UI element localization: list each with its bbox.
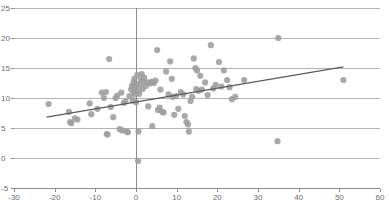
data-point <box>167 58 173 64</box>
y-tick-label: 10 <box>1 94 10 103</box>
data-point <box>157 87 163 93</box>
y-tick-label: 25 <box>1 4 10 13</box>
data-point <box>241 77 247 83</box>
data-point <box>145 103 151 109</box>
plot-area: -50510152025 -30-20-100102030405060 <box>0 0 389 203</box>
y-axis-labels: -50510152025 <box>1 4 10 193</box>
data-point <box>208 42 214 48</box>
trend-line <box>47 67 344 117</box>
data-point <box>161 109 167 115</box>
data-point <box>104 132 110 138</box>
data-point <box>189 94 195 100</box>
data-point <box>275 35 281 41</box>
data-point <box>197 73 203 79</box>
data-point <box>154 47 160 53</box>
data-point <box>152 78 158 84</box>
data-point <box>191 55 197 61</box>
x-tick-label: 30 <box>254 193 263 202</box>
x-tick-label: -30 <box>8 193 20 202</box>
data-point <box>135 129 141 135</box>
data-point <box>224 77 230 83</box>
data-point <box>186 129 192 135</box>
y-tick-label: 5 <box>1 124 6 133</box>
x-tick-label: 10 <box>172 193 181 202</box>
data-point <box>274 138 280 144</box>
x-tick-label: -20 <box>49 193 61 202</box>
x-tick-label: 60 <box>376 193 385 202</box>
data-point <box>340 77 346 83</box>
y-tick-label: -5 <box>1 184 9 193</box>
data-point <box>185 121 191 127</box>
data-point <box>149 123 155 129</box>
data-point <box>216 59 222 65</box>
y-tick-label: 20 <box>1 34 10 43</box>
y-tick-label: 0 <box>1 154 6 163</box>
x-axis-labels: -30-20-100102030405060 <box>8 193 385 202</box>
y-tick-label: 15 <box>1 64 10 73</box>
data-point <box>45 101 51 107</box>
data-point <box>169 76 175 82</box>
data-point <box>110 114 116 120</box>
data-point <box>232 94 238 100</box>
x-tick-label: 40 <box>294 193 303 202</box>
scatter-chart: -50510152025 -30-20-100102030405060 <box>0 0 389 203</box>
data-point <box>106 56 112 62</box>
data-point <box>74 117 80 123</box>
data-point <box>101 95 107 101</box>
data-point <box>171 112 177 118</box>
data-point <box>202 79 208 85</box>
data-point <box>221 67 227 73</box>
data-point <box>213 82 219 88</box>
datapoints-group <box>45 35 346 164</box>
x-tick-label: 50 <box>335 193 344 202</box>
data-point <box>87 100 93 106</box>
data-point <box>194 67 200 73</box>
axes-group <box>11 8 381 192</box>
x-tick-label: 0 <box>134 193 139 202</box>
data-point <box>163 69 169 75</box>
data-point <box>125 129 131 135</box>
data-point <box>175 106 181 112</box>
data-point <box>182 113 188 119</box>
x-tick-label: -10 <box>90 193 102 202</box>
data-point <box>88 111 94 117</box>
data-point <box>226 84 232 90</box>
trendline-group <box>47 67 344 117</box>
x-tick-label: 20 <box>213 193 222 202</box>
data-point <box>118 90 124 96</box>
data-point <box>135 158 141 164</box>
gridlines-group <box>14 9 380 189</box>
data-point <box>103 89 109 95</box>
data-point <box>204 92 210 98</box>
